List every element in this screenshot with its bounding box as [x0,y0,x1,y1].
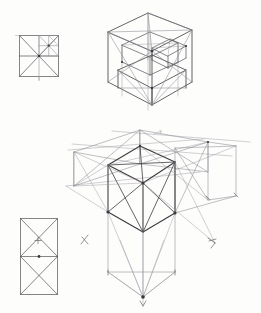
oblique-construction-upper-b [143,146,236,183]
oblique-construction-upper-c [140,146,208,200]
node-step-right [185,45,187,47]
node-vanishing-point [141,295,145,299]
drawing-sheet: Perspective and Axonometric Construction… [0,0,261,313]
outer-left-face-diagonal-b [108,32,152,105]
oblique-construction-right-b [175,162,215,243]
inner-platform-bottom-left [122,62,150,75]
right-extension-diagonal-b [140,142,208,164]
figure-subdivided-rectangle [21,219,58,295]
figure-isometric-nested-cube [108,13,192,110]
main-cube-left-diagonal-b [108,183,143,212]
rectangle-center-node [38,255,41,258]
right-extension-top-edge [208,142,236,146]
node-extension-far-top [207,141,209,143]
node-lower-front [151,87,153,89]
figure-subdivided-square [16,36,59,81]
right-extension-bottom-edge [208,196,236,200]
node-cube-front-top [141,181,144,184]
right-extension-guide-bottom [175,196,236,213]
left-aux-diagonal-b [74,130,140,186]
drawing-canvas [0,0,261,313]
left-guide-d [74,165,108,186]
oblique-construction-right [143,183,215,243]
node-cube-left-bottom [106,210,109,213]
guide-upper-receding-b [66,172,200,186]
outer-left-face-diagonal [108,51,152,82]
arrow-marker-right-icon [208,238,216,248]
figure-perspective-cube-construction [66,130,250,306]
lower-block-diagonal-a [118,70,152,105]
arrow-marker-left-icon [81,235,88,244]
node-front-top [151,50,154,53]
node-cube-right-bottom [173,211,176,214]
quadrant-center-node [48,45,50,47]
outer-top-diagonal-b [148,13,192,30]
square-center-node [38,55,41,58]
lower-block-diagonal-c [152,70,186,105]
main-cube-right-diagonal-b [143,183,175,213]
node-cube-back-top [139,145,141,147]
outer-cube-bottom-left [108,82,152,105]
left-guide-e [66,186,108,212]
node-platform-left [121,61,123,63]
